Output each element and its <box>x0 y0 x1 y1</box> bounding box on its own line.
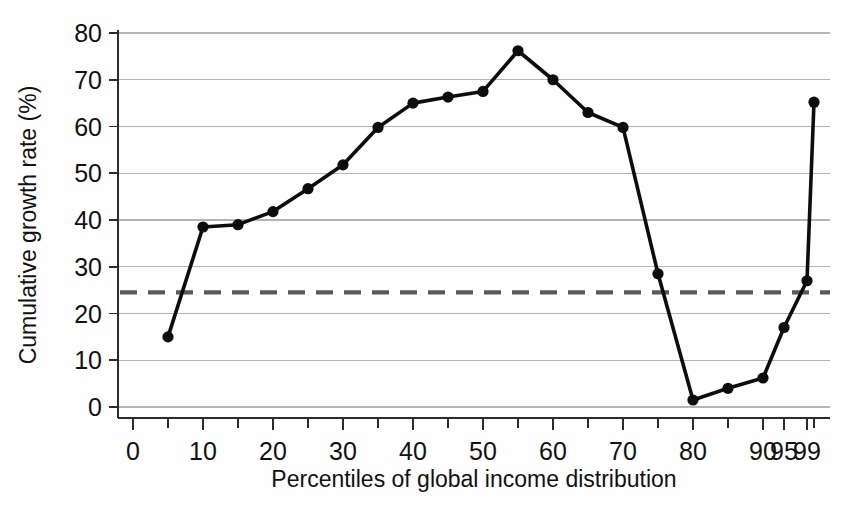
data-point <box>808 97 819 108</box>
data-point <box>687 394 698 405</box>
y-tick-label: 30 <box>74 253 102 281</box>
chart-canvas: 01020304050607080 0102030405060708090959… <box>0 0 859 509</box>
x-tick-label: 99 <box>793 437 821 465</box>
x-tick-label: 0 <box>126 437 140 465</box>
y-axis: 01020304050607080 <box>74 19 118 421</box>
chart-figure: 01020304050607080 0102030405060708090959… <box>0 0 859 509</box>
data-point <box>582 107 593 118</box>
x-tick-label: 50 <box>469 437 497 465</box>
y-tick-label: 50 <box>74 159 102 187</box>
y-tick-label: 40 <box>74 206 102 234</box>
chart-background <box>0 0 859 509</box>
x-tick-label: 30 <box>329 437 357 465</box>
y-tick-label: 60 <box>74 113 102 141</box>
data-point <box>477 86 488 97</box>
data-point <box>337 159 348 170</box>
data-point <box>162 331 173 342</box>
data-point <box>267 206 278 217</box>
data-point <box>757 372 768 383</box>
x-tick-label: 70 <box>609 437 637 465</box>
data-point <box>547 74 558 85</box>
x-axis-title: Percentiles of global income distributio… <box>271 466 676 492</box>
data-point <box>778 322 789 333</box>
data-point <box>197 221 208 232</box>
x-tick-label: 80 <box>679 437 707 465</box>
x-tick-label: 40 <box>399 437 427 465</box>
data-point <box>652 268 663 279</box>
y-tick-label: 0 <box>88 393 102 421</box>
data-point <box>372 122 383 133</box>
y-axis-title: Cumulative growth rate (%) <box>15 86 41 365</box>
y-tick-label: 20 <box>74 300 102 328</box>
data-point <box>302 183 313 194</box>
y-tick-label: 70 <box>74 66 102 94</box>
data-point <box>512 45 523 56</box>
data-point <box>407 98 418 109</box>
y-tick-label: 10 <box>74 346 102 374</box>
data-point <box>232 219 243 230</box>
data-point <box>442 91 453 102</box>
data-point <box>722 383 733 394</box>
data-point <box>801 275 812 286</box>
data-point <box>617 122 628 133</box>
y-axis-tick-labels: 01020304050607080 <box>74 19 102 421</box>
y-tick-label: 80 <box>74 19 102 47</box>
x-tick-label: 20 <box>259 437 287 465</box>
x-tick-label: 60 <box>539 437 567 465</box>
x-tick-label: 10 <box>189 437 217 465</box>
